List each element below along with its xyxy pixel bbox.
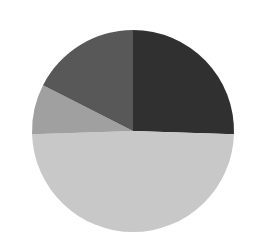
- pie-chart-figure: [0, 0, 253, 250]
- pie-slice-group: [32, 30, 234, 232]
- pie-chart-canvas: [0, 0, 253, 250]
